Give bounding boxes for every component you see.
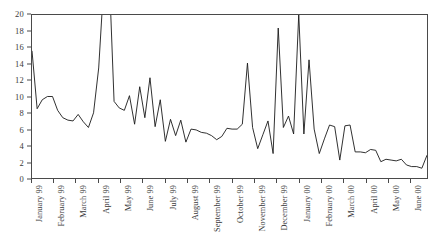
x-tick-label: May 00 bbox=[392, 185, 401, 211]
x-tick-mark bbox=[53, 179, 54, 183]
x-tick-label: September 99 bbox=[213, 185, 222, 232]
data-series-line bbox=[32, 15, 427, 178]
y-tick-label: 10 bbox=[15, 92, 24, 102]
x-tick-label: March 99 bbox=[79, 185, 88, 218]
line-chart-figure: 02468101214161820 January 99February 99M… bbox=[0, 0, 447, 236]
x-tick-label: August 99 bbox=[191, 185, 200, 220]
x-tick-mark bbox=[388, 179, 389, 183]
y-tick-label: 6 bbox=[20, 125, 24, 135]
x-tick-mark bbox=[31, 179, 32, 183]
x-tick-mark bbox=[254, 179, 255, 183]
y-tick-label: 4 bbox=[20, 141, 24, 151]
x-tick-label: March 00 bbox=[347, 185, 356, 218]
x-tick-label: June 00 bbox=[414, 185, 423, 211]
x-tick-label: July 99 bbox=[169, 185, 178, 210]
x-tick-mark bbox=[187, 179, 188, 183]
x-tick-mark bbox=[276, 179, 277, 183]
y-tick-label: 20 bbox=[15, 9, 24, 19]
x-tick-label: January 00 bbox=[303, 185, 312, 222]
x-tick-label: February 00 bbox=[325, 185, 334, 226]
y-tick-label: 16 bbox=[15, 42, 24, 52]
x-tick-mark bbox=[165, 179, 166, 183]
y-axis: 02468101214161820 bbox=[0, 0, 31, 193]
x-tick-label: June 99 bbox=[146, 185, 155, 211]
x-tick-mark bbox=[299, 179, 300, 183]
x-axis: January 99February 99March 99April 99May… bbox=[31, 179, 428, 236]
x-tick-mark bbox=[120, 179, 121, 183]
x-tick-label: October 99 bbox=[236, 185, 245, 223]
x-tick-label: November 99 bbox=[258, 185, 267, 232]
y-tick-label: 0 bbox=[20, 174, 24, 184]
y-tick-label: 14 bbox=[15, 59, 24, 69]
y-tick-label: 12 bbox=[15, 75, 24, 85]
x-tick-mark bbox=[366, 179, 367, 183]
y-tick-label: 18 bbox=[15, 26, 24, 36]
x-tick-mark bbox=[410, 179, 411, 183]
x-tick-label: May 99 bbox=[124, 185, 133, 211]
x-tick-label: February 99 bbox=[57, 185, 66, 226]
x-tick-label: January 99 bbox=[35, 185, 44, 222]
x-tick-mark bbox=[142, 179, 143, 183]
y-tick-label: 8 bbox=[20, 108, 24, 118]
x-tick-mark bbox=[75, 179, 76, 183]
x-tick-mark bbox=[209, 179, 210, 183]
x-tick-mark bbox=[343, 179, 344, 183]
x-tick-label: December 99 bbox=[280, 185, 289, 231]
x-tick-label: April 00 bbox=[370, 185, 379, 214]
x-tick-label: April 99 bbox=[102, 185, 111, 214]
x-tick-mark bbox=[232, 179, 233, 183]
x-tick-mark bbox=[98, 179, 99, 183]
plot-area bbox=[31, 14, 428, 179]
x-tick-mark bbox=[321, 179, 322, 183]
y-tick-label: 2 bbox=[20, 158, 24, 168]
